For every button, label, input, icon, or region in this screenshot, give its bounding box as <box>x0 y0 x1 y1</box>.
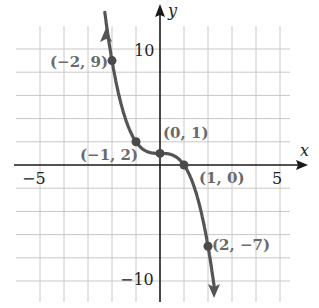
point-label: (1, 0) <box>199 169 245 187</box>
point-label: (−2, 9) <box>50 53 108 71</box>
y-axis-label: y <box>167 1 178 20</box>
data-point <box>132 137 141 146</box>
data-point <box>108 56 117 65</box>
data-point <box>156 149 165 158</box>
data-point <box>180 161 189 170</box>
point-label: (−1, 2) <box>80 146 138 164</box>
y-tick-label-neg10: −10 <box>120 270 154 289</box>
x-tick-label-neg5: −5 <box>22 169 46 188</box>
curve-up-arrow-icon <box>100 28 112 42</box>
x-tick-label-5: 5 <box>272 169 282 188</box>
y-tick-label-10: 10 <box>134 41 154 60</box>
graph: x y −5 5 10 −10 (−2, 9) (−1, 2) (0, 1) (… <box>0 0 319 308</box>
x-axis-label: x <box>300 141 309 160</box>
point-label: (0, 1) <box>163 124 209 142</box>
point-label: (2, −7) <box>212 236 270 254</box>
